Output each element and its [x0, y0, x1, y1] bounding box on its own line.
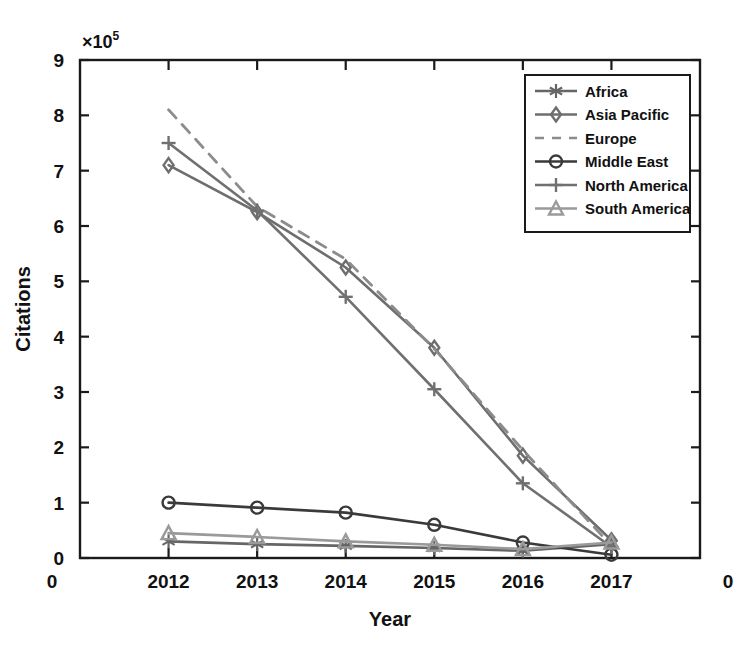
legend-label: Middle East — [585, 153, 668, 170]
y-axis-multiplier-text: ×105 — [82, 29, 120, 52]
legend-item-middle-east[interactable]: Middle East — [535, 153, 668, 170]
x-axis-title: Year — [369, 608, 411, 630]
legend-label: Europe — [585, 130, 637, 147]
x-edge-label: 0 — [723, 571, 734, 592]
y-tick-label: 3 — [53, 382, 64, 403]
x-tick-label: 2016 — [502, 571, 544, 592]
y-tick-label: 5 — [53, 271, 64, 292]
y-tick-label: 8 — [53, 105, 64, 126]
y-axis-multiplier-exponent: 5 — [113, 29, 120, 43]
citations-line-chart: 0123456789 20122013201420152016201700 Ye… — [0, 0, 748, 655]
legend-label: South America — [585, 200, 691, 217]
y-axis-title: Citations — [12, 266, 34, 352]
chart-canvas: 0123456789 20122013201420152016201700 Ye… — [0, 0, 748, 655]
x-tick-label: 2013 — [236, 571, 278, 592]
y-tick-label: 0 — [53, 548, 64, 569]
y-tick-label: 9 — [53, 50, 64, 71]
labels-layer: YearCitations×105 — [12, 29, 411, 630]
x-tick-label: 2015 — [413, 571, 456, 592]
legend-label: Africa — [585, 83, 628, 100]
legend-item-asia-pacific[interactable]: Asia Pacific — [535, 106, 669, 123]
y-tick-label: 4 — [53, 327, 64, 348]
legend-label: North America — [585, 177, 688, 194]
legend[interactable]: AfricaAsia PacificEuropeMiddle EastNorth… — [525, 75, 691, 232]
x-tick-label: 2017 — [590, 571, 632, 592]
y-tick-label: 1 — [53, 493, 64, 514]
y-tick-label: 6 — [53, 216, 64, 237]
series-middle-east — [163, 497, 618, 561]
y-tick-label: 2 — [53, 437, 64, 458]
y-tick-label: 7 — [53, 161, 64, 182]
series-south-america — [162, 526, 619, 555]
y-axis-multiplier: ×105 — [82, 29, 120, 52]
legend-label: Asia Pacific — [585, 106, 669, 123]
x-tick-label: 2014 — [325, 571, 368, 592]
x-tick-label: 2012 — [147, 571, 189, 592]
x-edge-label: 0 — [47, 571, 58, 592]
